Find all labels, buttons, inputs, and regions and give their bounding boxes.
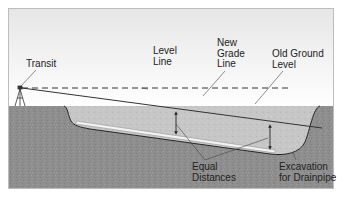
label-excavation-for-drainpipe: Excavation for Drainpipe bbox=[279, 161, 337, 183]
label-transit: Transit bbox=[26, 58, 56, 69]
drainpipe-grade-diagram: Transit Level Line New Grade Line Old Gr… bbox=[0, 0, 344, 197]
